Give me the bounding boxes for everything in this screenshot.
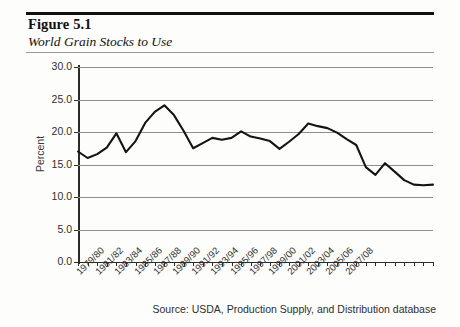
- y-axis-label: Percent: [34, 109, 46, 199]
- x-axis-tick-mark: [433, 262, 434, 266]
- figure-number: Figure 5.1: [28, 16, 92, 33]
- source-note: Source: USDA, Production Supply, and Dis…: [153, 303, 436, 315]
- stocks-to-use-line-series: [78, 67, 433, 262]
- figure-container: Figure 5.1 World Grain Stocks to Use Per…: [0, 0, 460, 327]
- title-underrule: [26, 52, 434, 53]
- y-axis-tick-label: 10.0: [36, 190, 72, 202]
- y-axis-tick-label: 30.0: [36, 60, 72, 72]
- y-axis-tick-label: 5.0: [36, 223, 72, 235]
- y-axis-tick-label: 15.0: [36, 158, 72, 170]
- top-rule: [26, 12, 434, 15]
- y-axis-tick-label: 20.0: [36, 125, 72, 137]
- plot-area: [78, 67, 433, 262]
- figure-title: World Grain Stocks to Use: [28, 34, 172, 50]
- y-axis-tick-label: 0.0: [36, 255, 72, 267]
- y-axis-tick-label: 25.0: [36, 93, 72, 105]
